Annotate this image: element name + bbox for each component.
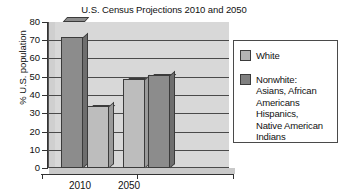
y-tick-label-80: 80 bbox=[16, 17, 40, 27]
legend: White Nonwhite: Asians, African American… bbox=[233, 40, 338, 143]
x-tick-label-2010: 2010 bbox=[58, 180, 102, 192]
y-tick-mark-30 bbox=[42, 113, 48, 114]
chart-title: U.S. Census Projections 2010 and 2050 bbox=[44, 4, 284, 16]
bar-chart: U.S. Census Projections 2010 and 2050 % … bbox=[0, 0, 341, 195]
legend-label-nonwhite: Nonwhite: Asians, African Americans Hisp… bbox=[256, 74, 323, 142]
y-tick-label-60: 60 bbox=[16, 53, 40, 63]
legend-swatch-white-icon bbox=[240, 50, 251, 61]
legend-item-nonwhite: Nonwhite: Asians, African Americans Hisp… bbox=[240, 74, 323, 142]
y-tick-label-30: 30 bbox=[16, 108, 40, 118]
x-tick-mark-left bbox=[42, 174, 43, 179]
bar-top-face bbox=[63, 17, 90, 22]
legend-label-white: White bbox=[256, 50, 280, 61]
plot-area bbox=[48, 22, 229, 168]
bar-front-face bbox=[87, 106, 109, 168]
y-tick-label-0: 0 bbox=[16, 163, 40, 173]
bar-front-face bbox=[61, 37, 83, 168]
y-tick-label-20: 20 bbox=[16, 127, 40, 137]
x-tick-mark-right bbox=[233, 174, 234, 179]
bar-2050-nonwhite bbox=[148, 22, 170, 168]
y-tick-mark-10 bbox=[42, 150, 48, 151]
bar-front-face bbox=[148, 75, 170, 168]
y-tick-mark-80 bbox=[42, 22, 48, 23]
bar-2010-nonwhite bbox=[87, 22, 109, 168]
y-tick-label-40: 40 bbox=[16, 90, 40, 100]
legend-item-white: White bbox=[240, 50, 280, 61]
bar-side-face bbox=[170, 71, 175, 169]
y-tick-mark-50 bbox=[42, 77, 48, 78]
y-tick-label-10: 10 bbox=[16, 145, 40, 155]
y-tick-mark-0 bbox=[42, 168, 48, 169]
x-tick-label-2050: 2050 bbox=[107, 180, 151, 192]
y-tick-label-70: 70 bbox=[16, 35, 40, 45]
y-tick-label-50: 50 bbox=[16, 72, 40, 82]
legend-swatch-nonwhite-icon bbox=[240, 74, 251, 85]
x-tick-mark-mid bbox=[137, 174, 138, 179]
bar-2050-white bbox=[123, 22, 145, 168]
y-tick-mark-40 bbox=[42, 95, 48, 96]
bar-side-face bbox=[109, 102, 114, 169]
y-tick-mark-20 bbox=[42, 132, 48, 133]
bar-2010-white bbox=[61, 22, 83, 168]
bar-front-face bbox=[123, 79, 145, 168]
y-tick-mark-60 bbox=[42, 58, 48, 59]
y-tick-mark-70 bbox=[42, 40, 48, 41]
